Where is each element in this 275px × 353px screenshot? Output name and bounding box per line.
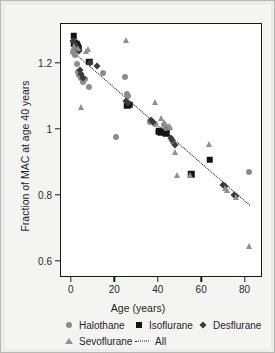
x-axis-tick — [200, 277, 201, 282]
data-point — [123, 37, 129, 43]
x-axis-tick — [114, 277, 115, 282]
data-point — [174, 172, 180, 178]
data-point — [224, 187, 230, 193]
data-point — [246, 243, 252, 249]
plot-area — [60, 23, 262, 277]
data-point — [122, 74, 128, 80]
figure-frame: 0204060800.60.811.2 Fraction of MAC at a… — [0, 0, 275, 353]
y-axis-tick-label: 0.6 — [38, 255, 52, 266]
y-axis-tick-label: 0.8 — [38, 189, 52, 200]
x-axis-tick-label: 20 — [109, 284, 120, 295]
circle-marker — [63, 319, 75, 331]
legend-row: HalothaneIsofluraneDesflurane — [5, 319, 271, 334]
x-axis-tick — [70, 277, 71, 282]
data-point — [233, 194, 239, 200]
data-point — [93, 63, 100, 70]
y-axis-tick-label: 1 — [46, 123, 52, 134]
data-point — [206, 141, 212, 147]
legend-item[interactable]: All — [133, 335, 166, 347]
dotted-line-marker — [133, 335, 151, 347]
legend-label: Isoflurane — [149, 320, 193, 331]
data-point — [85, 46, 91, 52]
legend-label: All — [155, 336, 166, 347]
data-point — [207, 157, 214, 164]
data-point — [246, 169, 252, 175]
x-axis-tick-label: 60 — [196, 284, 207, 295]
data-point — [152, 99, 158, 105]
legend-item[interactable]: Halothane — [63, 319, 125, 331]
legend-label: Halothane — [79, 320, 125, 331]
data-point — [187, 172, 193, 178]
square-marker — [133, 319, 145, 331]
data-point — [172, 149, 178, 155]
y-axis-title: Fraction of MAC at age 40 years — [19, 66, 31, 246]
legend-label: Sevoflurane — [79, 336, 132, 347]
data-point — [113, 134, 119, 140]
x-axis-tick-label: 0 — [68, 284, 74, 295]
legend-item[interactable]: Sevoflurane — [63, 335, 132, 347]
data-point — [86, 84, 92, 90]
x-axis-tick — [157, 277, 158, 282]
x-axis-tick — [244, 277, 245, 282]
y-axis-tick — [55, 62, 60, 63]
legend-label: Desflurane — [213, 320, 261, 331]
triangle-marker — [63, 335, 75, 347]
data-point — [100, 70, 106, 76]
y-axis-tick — [55, 260, 60, 261]
x-axis-tick-label: 80 — [239, 284, 250, 295]
legend-item[interactable]: Desflurane — [197, 319, 261, 331]
data-point — [75, 45, 81, 51]
data-point — [78, 104, 84, 110]
legend-row: SevofluraneAll — [5, 335, 271, 350]
y-axis-tick — [55, 128, 60, 129]
figure-canvas: 0204060800.60.811.2 Fraction of MAC at a… — [5, 5, 271, 349]
diamond-marker — [197, 319, 209, 331]
y-axis-tick — [55, 194, 60, 195]
x-axis-tick-label: 40 — [152, 284, 163, 295]
data-point — [167, 124, 173, 130]
legend-item[interactable]: Isoflurane — [133, 319, 193, 331]
x-axis-title: Age (years) — [5, 302, 271, 314]
y-axis-tick-label: 1.2 — [38, 57, 52, 68]
